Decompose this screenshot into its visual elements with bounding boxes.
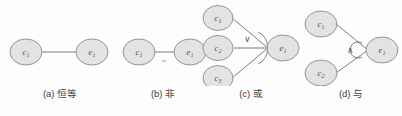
panel-not-graph: c1 e1 ~: [118, 0, 208, 86]
panel-and-graph: c1 c2 e1 ∧: [300, 0, 402, 86]
logic-gate-figure: c1 e1 (a) 恒等 c1 e1 ~ (b) 非 c1 c2: [0, 0, 402, 116]
panel-identity-graph: c1 e1: [0, 0, 120, 86]
caption-identity: (a) 恒等: [0, 86, 120, 100]
caption-and: (d) 与: [300, 86, 402, 100]
panel-not: c1 e1 ~ (b) 非: [118, 0, 208, 116]
edge-c3-to-e1: [232, 48, 268, 78]
operator-not-symbol: ~: [162, 56, 167, 66]
operator-or-symbol: ∨: [244, 34, 251, 44]
panel-or: c1 c2 c3 e1 ∨ (c) 或: [196, 0, 306, 116]
caption-not: (b) 非: [118, 86, 208, 100]
operator-and-symbol: ∧: [347, 45, 354, 55]
panel-identity: c1 e1 (a) 恒等: [0, 0, 120, 116]
caption-or: (c) 或: [196, 86, 306, 100]
panel-and: c1 c2 e1 ∧ (d) 与: [300, 0, 402, 116]
panel-or-graph: c1 c2 c3 e1 ∨: [196, 0, 306, 86]
